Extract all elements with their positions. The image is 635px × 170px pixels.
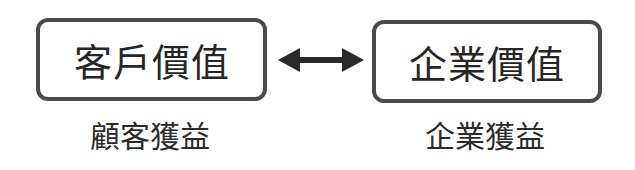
enterprise-benefit-caption: 企業獲益 (365, 112, 605, 156)
customer-value-box: 客戶價值 (36, 18, 267, 101)
bidirectional-arrow-icon (278, 44, 364, 76)
enterprise-value-box: 企業價值 (372, 20, 602, 103)
arrow-left-head (278, 48, 300, 72)
enterprise-value-label: 企業價值 (409, 34, 565, 89)
customer-benefit-caption: 顧客獲益 (30, 112, 270, 156)
customer-value-label: 客戶價值 (74, 32, 230, 87)
arrow-right-head (342, 48, 364, 72)
arrow-shaft (298, 57, 344, 63)
